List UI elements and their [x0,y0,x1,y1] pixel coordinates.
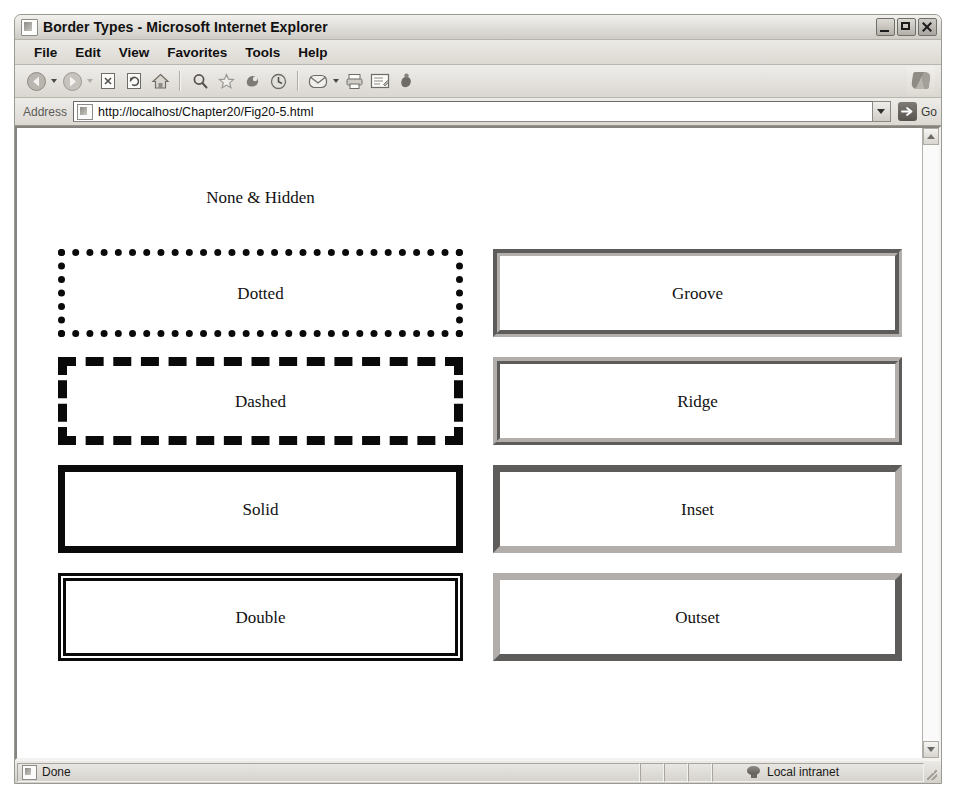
chevron-down-icon[interactable] [873,101,891,122]
window-title: Border Types - Microsoft Internet Explor… [43,19,328,35]
media-icon[interactable] [239,68,265,94]
menu-item-help[interactable]: Help [289,43,336,62]
border-box-label: Solid [243,501,279,518]
border-box-solid: Solid [58,465,463,553]
border-box-outset: Outset [493,573,902,661]
close-button[interactable] [918,18,937,36]
menu-item-tools[interactable]: Tools [236,43,289,62]
refresh-icon[interactable] [121,68,147,94]
window-controls [876,18,937,36]
browser-window: Border Types - Microsoft Internet Explor… [14,14,942,784]
border-box-label: Double [235,609,285,626]
print-icon[interactable] [341,68,367,94]
status-text: Done [42,765,71,779]
go-label: Go [921,105,937,119]
back-dropdown-caret-icon[interactable] [49,68,59,94]
scrollbar-track[interactable] [923,145,939,741]
border-box-label: None & Hidden [206,189,315,206]
menu-bar: File Edit View Favorites Tools Help [15,40,941,65]
messenger-icon[interactable] [393,68,419,94]
mail-icon[interactable] [305,68,331,94]
border-box-label: Outset [675,609,719,626]
border-box-dashed: Dashed [58,357,463,445]
border-box-groove: Groove [493,249,902,337]
scroll-down-arrow-icon[interactable] [923,741,939,758]
menu-item-edit[interactable]: Edit [66,43,110,62]
toolbar-separator [179,71,181,91]
minimize-button[interactable] [876,18,895,36]
title-bar: Border Types - Microsoft Internet Explor… [15,15,941,40]
go-arrow-icon [898,102,917,121]
history-icon[interactable] [265,68,291,94]
address-label: Address [23,105,67,119]
border-demo-container: None & Hidden Dotted Dashed Solid Double… [17,128,922,758]
status-bar: Done Local intranet [15,760,941,783]
security-zone-label: Local intranet [767,765,839,779]
search-icon[interactable] [187,68,213,94]
favorites-star-icon[interactable] [213,68,239,94]
menu-item-file[interactable]: File [25,43,66,62]
address-bar: Address http://localhost/Chapter20/Fig20… [15,98,941,126]
page-icon [22,765,37,780]
toolbar [15,65,941,98]
border-box-label: Inset [681,501,714,518]
border-box-double: Double [58,573,463,661]
vertical-scrollbar[interactable] [922,128,939,758]
page-icon [21,19,38,36]
address-input[interactable]: http://localhost/Chapter20/Fig20-5.html [73,101,873,122]
back-icon[interactable] [23,68,49,94]
page-icon [77,104,93,120]
border-box-ridge: Ridge [493,357,902,445]
edit-icon[interactable] [367,68,393,94]
address-url-text: http://localhost/Chapter20/Fig20-5.html [98,105,313,119]
border-box-label: Dotted [237,285,283,302]
ie-logo-icon [907,67,935,95]
maximize-button[interactable] [897,18,916,36]
intranet-globe-icon [747,765,762,779]
status-pane [640,763,664,782]
page-viewport: None & Hidden Dotted Dashed Solid Double… [15,126,941,760]
toolbar-separator [297,71,299,91]
status-message: Done [17,763,640,782]
forward-icon[interactable] [59,68,85,94]
resize-grip-icon[interactable] [925,763,939,782]
forward-dropdown-caret-icon [85,68,95,94]
mail-dropdown-caret-icon[interactable] [331,68,341,94]
border-box-label: Dashed [235,393,286,410]
go-button[interactable]: Go [898,102,937,121]
menu-item-view[interactable]: View [110,43,159,62]
status-pane [688,763,712,782]
menu-item-favorites[interactable]: Favorites [158,43,236,62]
border-box-dotted: Dotted [58,249,463,337]
border-box-inset: Inset [493,465,902,553]
scroll-up-arrow-icon[interactable] [923,128,939,145]
status-pane [664,763,688,782]
security-zone-indicator[interactable]: Local intranet [712,763,924,782]
home-icon[interactable] [147,68,173,94]
border-box-label: Ridge [677,393,718,410]
border-box-label: Groove [672,285,723,302]
border-box-none: None & Hidden [58,169,463,225]
page-canvas: None & Hidden Dotted Dashed Solid Double… [17,128,922,758]
stop-icon[interactable] [95,68,121,94]
